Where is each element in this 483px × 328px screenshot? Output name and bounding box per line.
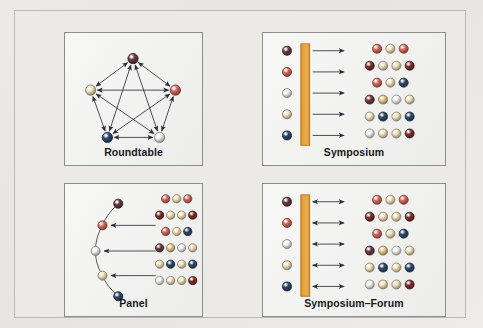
quadrant-symposium: Symposium bbox=[262, 32, 446, 166]
node-circle-salmon bbox=[399, 44, 408, 53]
audience-member bbox=[162, 195, 170, 203]
node-highlight bbox=[367, 97, 369, 99]
figure-outer-frame: Roundtable Symposium Panel Symposium–For… bbox=[14, 10, 466, 318]
node-highlight bbox=[284, 48, 286, 50]
node-highlight bbox=[401, 46, 403, 48]
node-circle-white bbox=[178, 244, 186, 252]
audience-member bbox=[405, 212, 414, 221]
audience-member bbox=[392, 280, 401, 289]
node-highlight bbox=[88, 87, 91, 90]
node-highlight bbox=[163, 196, 165, 198]
audience-member bbox=[373, 229, 382, 238]
audience-member bbox=[392, 95, 401, 104]
quadrant-label-roundtable: Roundtable bbox=[65, 146, 202, 158]
node-circle-salmon bbox=[170, 85, 180, 95]
node-circle-maroon bbox=[365, 246, 374, 255]
audience-member bbox=[399, 78, 408, 87]
node-circle-salmon bbox=[373, 195, 382, 204]
panelist-node bbox=[91, 246, 100, 255]
node-highlight bbox=[172, 87, 175, 90]
speaker-node bbox=[282, 282, 291, 291]
audience-member bbox=[184, 195, 192, 203]
node-circle-cream bbox=[365, 112, 374, 121]
audience-member bbox=[178, 260, 186, 268]
audience-member bbox=[189, 260, 197, 268]
audience-group bbox=[155, 195, 196, 285]
node-highlight bbox=[394, 97, 396, 99]
quadrant-label-symposium: Symposium bbox=[263, 146, 445, 158]
node-circle-cream bbox=[282, 110, 291, 119]
node-highlight bbox=[367, 265, 369, 267]
speaker-node bbox=[282, 67, 291, 76]
audience-row bbox=[373, 229, 409, 238]
node-highlight bbox=[394, 265, 396, 267]
node-highlight bbox=[388, 231, 390, 233]
node-circle-salmon bbox=[282, 218, 291, 227]
audience-row bbox=[155, 260, 196, 268]
node-circle-cream bbox=[392, 61, 401, 70]
node-highlight bbox=[157, 262, 159, 264]
audience-member bbox=[392, 246, 401, 255]
node-circle-navy bbox=[399, 229, 408, 238]
audience-member bbox=[379, 112, 388, 121]
node-circle-darkred bbox=[405, 280, 414, 289]
node-highlight bbox=[284, 69, 286, 71]
node-highlight bbox=[157, 245, 159, 247]
audience-member bbox=[365, 263, 374, 272]
roundtable-edge bbox=[162, 96, 174, 131]
node-circle-maroon bbox=[282, 197, 291, 206]
quadrant-panel: Panel bbox=[64, 183, 203, 317]
node-highlight bbox=[381, 63, 383, 65]
roundtable-participant bbox=[128, 53, 138, 63]
node-circle-cream bbox=[386, 78, 395, 87]
node-highlight bbox=[168, 213, 170, 215]
node-circle-cream bbox=[379, 212, 388, 221]
node-highlight bbox=[381, 214, 383, 216]
audience-member bbox=[365, 61, 374, 70]
roundtable-participant bbox=[86, 85, 96, 95]
node-circle-navy bbox=[282, 131, 291, 140]
audience-member bbox=[379, 246, 388, 255]
audience-member bbox=[379, 61, 388, 70]
audience-member bbox=[379, 280, 388, 289]
node-highlight bbox=[367, 131, 369, 133]
node-circle-cream bbox=[392, 280, 401, 289]
node-circle-cream bbox=[379, 129, 388, 138]
node-circle-maroon bbox=[282, 46, 291, 55]
audience-member bbox=[155, 276, 163, 284]
node-highlight bbox=[375, 80, 377, 82]
node-highlight bbox=[381, 97, 383, 99]
roundtable-edge bbox=[109, 65, 130, 131]
node-circle-cream bbox=[379, 280, 388, 289]
node-circle-white bbox=[392, 95, 401, 104]
node-highlight bbox=[100, 223, 102, 225]
audience-row bbox=[373, 44, 409, 53]
audience-row bbox=[373, 78, 409, 87]
node-circle-salmon bbox=[399, 195, 408, 204]
audience-member bbox=[365, 246, 374, 255]
node-circle-navy bbox=[405, 263, 414, 272]
panelist-node bbox=[114, 199, 123, 208]
node-highlight bbox=[284, 133, 286, 135]
figure-root: Roundtable Symposium Panel Symposium–For… bbox=[0, 0, 483, 328]
node-circle-maroon bbox=[128, 53, 138, 63]
node-circle-darkred bbox=[189, 211, 197, 219]
node-circle-cream bbox=[167, 276, 175, 284]
audience-row bbox=[365, 280, 414, 289]
audience-member bbox=[184, 227, 192, 235]
node-circle-cream bbox=[86, 85, 96, 95]
node-highlight bbox=[105, 134, 108, 137]
speaker-node bbox=[282, 197, 291, 206]
node-highlight bbox=[394, 282, 396, 284]
node-highlight bbox=[394, 214, 396, 216]
audience-member bbox=[405, 263, 414, 272]
node-highlight bbox=[185, 196, 187, 198]
node-circle-cream bbox=[173, 227, 181, 235]
node-circle-navy bbox=[379, 263, 388, 272]
audience-row bbox=[365, 246, 414, 255]
node-highlight bbox=[375, 46, 377, 48]
node-highlight bbox=[394, 63, 396, 65]
audience-member bbox=[379, 212, 388, 221]
node-circle-navy bbox=[405, 112, 414, 121]
node-highlight bbox=[174, 229, 176, 231]
